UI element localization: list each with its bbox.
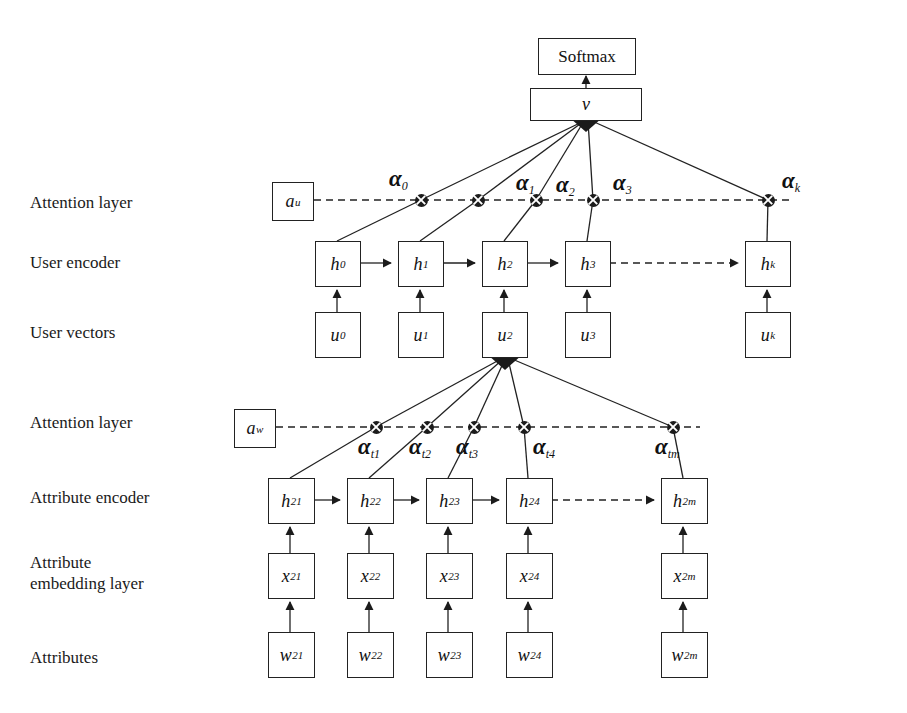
row-label-attributes: Attributes: [30, 647, 98, 668]
row-label-attribute-encoder: Attribute encoder: [30, 487, 149, 508]
attention-label-alpha-2: α2: [556, 172, 575, 200]
attribute-box-w-23: w23: [426, 632, 473, 678]
attention-label-alpha-t1: αt1: [358, 434, 380, 462]
attention-node-alpha-k[interactable]: [762, 194, 775, 207]
attribute-encoder-box-h-23: h23: [426, 478, 473, 524]
attribute-embedding-box-x-22: x22: [347, 553, 394, 599]
wire-alphat1-to-u2: [376, 359, 501, 427]
user-encoder-box-h-0: h0: [315, 241, 361, 287]
attribute-box-w-21: w21: [268, 632, 315, 678]
user-encoder-box-h-2: h2: [482, 241, 528, 287]
attention-box-a-w: aw: [234, 409, 276, 448]
wire-alphatm-to-u2: [512, 359, 673, 427]
attention-box-a-u-base: a: [286, 191, 295, 212]
user-vector-box-u-0: u0: [315, 312, 361, 358]
attribute-box-w-22: w22: [347, 632, 394, 678]
wire-h0-to-alpha0: [337, 200, 421, 241]
attention-node-alpha-t1[interactable]: [370, 421, 383, 434]
user-vector-box-u-1: u1: [398, 312, 444, 358]
wire-alphat4-to-u2: [508, 359, 524, 427]
attribute-embedding-box-x-24: x24: [506, 553, 553, 599]
attention-box-a-w-base: a: [247, 418, 256, 439]
wire-alpha3-to-v: [588, 121, 593, 200]
attribute-embedding-box-x-23: x23: [426, 553, 473, 599]
user-vector-box-u-3: u3: [565, 312, 611, 358]
attention-node-alpha-t3[interactable]: [468, 421, 481, 434]
attribute-embedding-box-x-21: x21: [268, 553, 315, 599]
attention-box-a-u-sub: u: [295, 196, 301, 208]
attention-node-alpha-0[interactable]: [415, 194, 428, 207]
attention-label-alpha-tm: αtm: [655, 434, 680, 462]
softmax-box: Softmax: [538, 38, 636, 75]
wire-alphat2-to-u2: [427, 359, 503, 427]
user-encoder-box-h-1: h1: [398, 241, 444, 287]
wire-alphat3-to-u2: [474, 359, 505, 427]
attention-label-alpha-t3: αt3: [456, 434, 478, 462]
user-encoder-box-h-k: hk: [745, 241, 791, 287]
attention-node-alpha-t4[interactable]: [518, 421, 531, 434]
row-label-attribute-embedding-layer: Attribute embedding layer: [30, 552, 144, 594]
wire-h24-to-alphat4: [524, 427, 528, 478]
attention-label-alpha-k: αk: [782, 168, 800, 196]
row-label-attention-layer-user: Attention layer: [30, 192, 132, 213]
user-vector-box-u-k: uk: [745, 312, 791, 358]
attribute-box-w-2m: w2m: [661, 632, 708, 678]
attention-label-alpha-1: α1: [516, 170, 535, 198]
user-vector-box-u-2: u2: [482, 312, 528, 358]
attribute-encoder-box-h-21: h21: [268, 478, 315, 524]
attention-box-a-u: au: [272, 182, 314, 221]
attention-label-alpha-3: α3: [613, 170, 632, 198]
attention-node-alpha-t2[interactable]: [421, 421, 434, 434]
v-box: v: [530, 88, 642, 121]
attribute-encoder-box-h-2m: h2m: [661, 478, 708, 524]
attribute-box-w-24: w24: [506, 632, 553, 678]
attention-label-alpha-t4: αt4: [533, 434, 555, 462]
row-label-user-encoder: User encoder: [30, 252, 120, 273]
attribute-embedding-box-x-2m: x2m: [661, 553, 708, 599]
attention-label-alpha-t2: αt2: [409, 434, 431, 462]
attention-box-a-w-sub: w: [256, 423, 263, 435]
attribute-encoder-box-h-24: h24: [506, 478, 553, 524]
diagram-canvas: Attention layer User encoder User vector…: [0, 0, 907, 713]
row-label-user-vectors: User vectors: [30, 322, 115, 343]
attention-node-alpha-1[interactable]: [472, 194, 485, 207]
user-encoder-box-h-3: h3: [565, 241, 611, 287]
wire-h1-to-alpha1: [420, 200, 478, 241]
attention-label-alpha-0: α0: [389, 166, 408, 194]
row-label-attention-layer-word: Attention layer: [30, 412, 132, 433]
wire-h2-to-alpha2: [504, 200, 536, 241]
attribute-encoder-box-h-22: h22: [347, 478, 394, 524]
attention-node-alpha-2[interactable]: [530, 194, 543, 207]
attention-node-alpha-3[interactable]: [587, 194, 600, 207]
attention-node-alpha-tm[interactable]: [667, 421, 680, 434]
